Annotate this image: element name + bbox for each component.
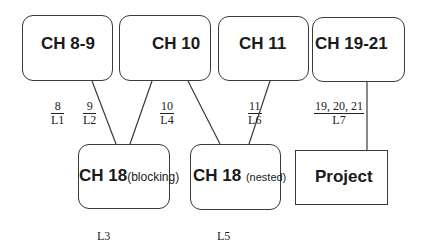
node-sublabel: (blocking) — [127, 170, 179, 184]
node-label: CH 8-9 — [41, 34, 112, 54]
node-ch18-nested: CH 18 (nested) — [190, 144, 281, 210]
edge-label-l1: 8 L1 — [51, 100, 64, 127]
node-label: CH 10 — [152, 34, 210, 54]
node-ch10: CH 10 — [119, 15, 211, 81]
caption-l5: L5 — [217, 229, 230, 244]
node-ch8-9: CH 8-9 — [22, 15, 113, 81]
node-project: Project — [295, 150, 388, 205]
edge-label-l4: 10 L4 — [160, 100, 174, 127]
node-label: CH 11 — [239, 34, 308, 54]
node-sublabel: (nested) — [246, 171, 286, 183]
node-label: CH 18 (nested) — [193, 166, 280, 186]
node-label: CH 19-21 — [315, 34, 404, 54]
edge-ch10-to-ch18-nested — [188, 81, 220, 144]
caption-l3: L3 — [97, 229, 110, 244]
edge-label-l6: 11 L6 — [248, 100, 262, 127]
node-label: CH 18(blocking) — [79, 166, 169, 186]
edge-ch10-to-ch18-blocking — [130, 81, 152, 144]
edge-label-l2: 9 L2 — [83, 100, 96, 127]
edge-label-l7: 19, 20, 21 L7 — [314, 100, 364, 127]
node-ch18-blocking: CH 18(blocking) — [78, 144, 170, 209]
node-ch19-21: CH 19-21 — [312, 17, 405, 82]
node-label: Project — [315, 167, 387, 187]
node-ch11: CH 11 — [218, 16, 309, 81]
